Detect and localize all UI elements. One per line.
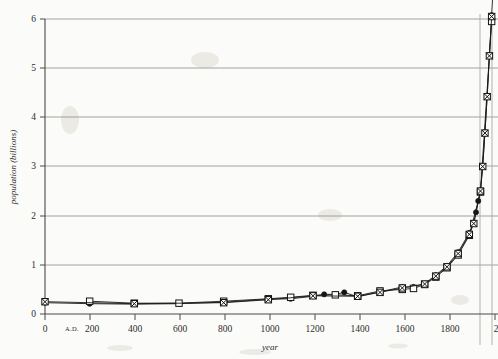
data-point-marker (342, 290, 347, 295)
x-tick-label-600: 600 (173, 324, 188, 334)
x-tick-label-200: 200 (85, 324, 100, 334)
series-estimate-open-square (86, 18, 494, 306)
paper-texture (61, 52, 469, 355)
x-tick-label-800: 800 (218, 324, 233, 334)
series-line-estimate-open-square (90, 21, 492, 303)
series-line-estimate-filled-circle (45, 0, 494, 304)
y-tick-label-2: 2 (31, 211, 36, 221)
x-tick-label-1200: 1200 (306, 324, 325, 334)
y-tick-label-0: 0 (31, 309, 36, 319)
y-tick-label-3: 3 (31, 161, 36, 171)
series-line-estimate-crossed-square (45, 17, 492, 304)
x-tick-label-1400: 1400 (351, 324, 370, 334)
y-axis-tick-labels: 6 5 4 3 2 1 0 (31, 14, 36, 319)
x-tick-label-0: 0 (43, 324, 48, 334)
x-tick-label-1000: 1000 (261, 324, 280, 334)
y-tick-label-1: 1 (31, 260, 36, 270)
series-estimate-filled-circle (42, 0, 496, 307)
x-axis-title: year (261, 342, 278, 352)
data-series-layer (42, 0, 497, 307)
x-tick-label-1800: 1800 (441, 324, 460, 334)
y-tick-label-4: 4 (31, 112, 36, 122)
x-axis-tick-labels: 0 A.D. 200 400 600 800 1000 1200 1400 16… (43, 324, 498, 334)
x-tick-label-1600: 1600 (396, 324, 415, 334)
y-tick-label-5: 5 (31, 63, 36, 73)
data-point-marker (86, 298, 92, 304)
y-axis-ticks (40, 19, 45, 314)
y-axis-title: population (billions) (8, 130, 18, 205)
horizontal-gridlines (45, 19, 498, 265)
x-tick-label-400: 400 (128, 324, 143, 334)
population-chart-figure: 6 5 4 3 2 1 0 0 A.D. 200 400 (0, 0, 498, 359)
data-point-marker (332, 292, 338, 298)
chart-canvas: 6 5 4 3 2 1 0 0 A.D. 200 400 (0, 0, 498, 359)
x-tick-label-2000: 2 (494, 324, 498, 334)
x-axis-ticks (45, 314, 495, 320)
axis-lines (45, 19, 498, 314)
era-label-ad: A.D. (65, 325, 79, 332)
y-tick-label-6: 6 (31, 14, 36, 24)
series-estimate-crossed-square (42, 13, 495, 307)
